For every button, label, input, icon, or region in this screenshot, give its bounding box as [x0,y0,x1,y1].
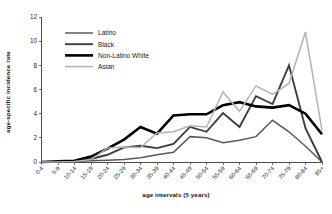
x-tick-label: 60-64 [228,165,243,181]
y-tick-label: 10 [30,37,38,44]
x-tick-label: 85+ [314,165,326,177]
x-tick-label: 70-74 [261,165,276,181]
x-tick-label: 0-4 [34,165,45,176]
x-tick-label: 5-9 [51,165,61,175]
series-line [42,102,323,162]
legend-label: Non-Latino White [98,52,149,59]
legend-label: Black [98,41,115,48]
x-tick-label: 40-44 [162,165,177,181]
y-tick-label: 6 [33,86,37,93]
x-axis-title: age intervals (5 years) [142,191,209,198]
y-tick-label: 8 [33,62,37,69]
x-tick-label: 50-54 [195,165,210,181]
series-line [42,120,323,162]
x-tick-label: 20-24 [96,165,111,181]
series-lines [42,32,323,162]
x-tick-label: 75-79 [277,165,292,180]
chart-figure: 024681012 0-45-910-1415-1920-2425-2930-3… [0,0,332,214]
y-axis-tick-labels: 024681012 [30,13,38,165]
x-tick-label: 25-29 [112,165,127,180]
y-tick-label: 0 [33,158,37,165]
x-tick-label: 35-39 [145,165,160,180]
x-tick-label: 30-34 [129,165,144,181]
legend-label: Asian [98,63,115,70]
x-tick-label: 80-84 [294,165,309,181]
y-tick-label: 2 [33,134,37,141]
y-axis-title: age-specific incidence rate [4,51,11,133]
x-tick-label: 45-49 [178,165,193,180]
x-tick-label: 10-14 [63,165,78,181]
x-tick-label: 15-19 [79,165,94,180]
x-tick-label: 55-59 [211,165,226,180]
legend-label: Latino [98,29,116,36]
y-tick-label: 4 [33,110,37,117]
line-chart: 024681012 0-45-910-1415-1920-2425-2930-3… [0,0,332,214]
x-tick-label: 65-69 [244,165,259,180]
series-line [42,32,323,162]
x-axis-tick-labels: 0-45-910-1415-1920-2425-2930-3435-3940-4… [34,165,325,181]
y-tick-label: 12 [30,13,38,20]
x-axis-group: 0-45-910-1415-1920-2425-2930-3435-3940-4… [34,162,325,180]
chart-legend: LatinoBlackNon-Latino WhiteAsian [65,29,149,70]
y-axis-group: 024681012 [30,13,42,165]
